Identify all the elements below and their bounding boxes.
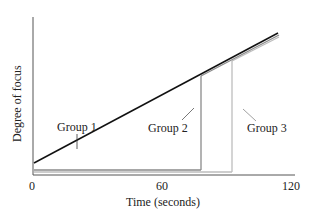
group3-line <box>232 37 279 61</box>
group1-label: Group 1 <box>57 120 97 134</box>
chart: Group 1 Group 2 Group 3 0 60 120 Time (s… <box>0 0 315 217</box>
group2-label: Group 2 <box>148 121 188 135</box>
x-tick-120: 120 <box>282 179 300 193</box>
x-tick-0: 0 <box>29 179 35 193</box>
group3-leader <box>243 109 256 121</box>
x-tick-60: 60 <box>156 179 168 193</box>
x-axis-label: Time (seconds) <box>126 195 200 209</box>
y-axis-label: Degree of focus <box>10 65 24 142</box>
group2-line <box>201 35 279 76</box>
group2-leader <box>182 108 194 120</box>
group3-label: Group 3 <box>247 121 287 135</box>
group1-line <box>34 33 278 163</box>
